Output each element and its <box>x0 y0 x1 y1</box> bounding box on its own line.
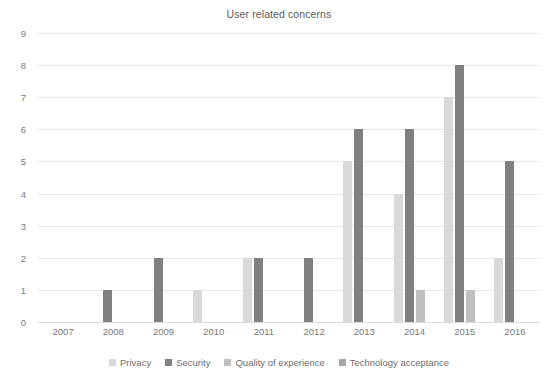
bar-group <box>239 33 289 322</box>
bar <box>416 290 425 322</box>
x-axis-tick-label: 2008 <box>88 326 138 344</box>
y-axis-tick-label: 9 <box>21 28 26 39</box>
bar <box>354 129 363 322</box>
x-axis-tick-label: 2014 <box>389 326 439 344</box>
x-axis-tick-label: 2016 <box>490 326 540 344</box>
bar-group <box>339 33 389 322</box>
legend-label: Privacy <box>120 357 151 368</box>
bar-group <box>88 33 138 322</box>
legend-swatch-icon <box>339 359 346 366</box>
bar <box>154 258 163 322</box>
bar <box>343 161 352 322</box>
bar <box>405 129 414 322</box>
chart-container: User related concerns 0123456789 2007200… <box>0 0 558 380</box>
y-axis-tick-label: 4 <box>21 188 26 199</box>
y-axis-tick-label: 0 <box>21 317 26 328</box>
bar <box>455 65 464 322</box>
bar <box>304 258 313 322</box>
bars-layer <box>38 33 540 322</box>
bar <box>243 258 252 322</box>
bar-group <box>440 33 490 322</box>
x-axis-tick-label: 2010 <box>189 326 239 344</box>
y-axis-tick-label: 8 <box>21 60 26 71</box>
legend-label: Quality of experience <box>235 357 324 368</box>
bar <box>103 290 112 322</box>
y-axis-tick-label: 6 <box>21 124 26 135</box>
x-axis: 2007200820092010201120122013201420152016 <box>38 326 540 344</box>
legend-label: Security <box>176 357 210 368</box>
bar-group <box>189 33 239 322</box>
plot-area <box>38 33 540 322</box>
y-axis-tick-label: 7 <box>21 92 26 103</box>
gridline <box>38 322 540 323</box>
bar-group <box>289 33 339 322</box>
legend-label: Technology acceptance <box>350 357 449 368</box>
x-axis-tick-label: 2012 <box>289 326 339 344</box>
x-axis-tick-label: 2015 <box>440 326 490 344</box>
chart-title: User related concerns <box>0 8 558 20</box>
bar <box>444 97 453 322</box>
legend-item[interactable]: Quality of experience <box>224 357 324 368</box>
bar <box>193 290 202 322</box>
legend-item[interactable]: Privacy <box>109 357 151 368</box>
bar <box>394 194 403 322</box>
x-axis-tick-label: 2013 <box>339 326 389 344</box>
legend-item[interactable]: Security <box>165 357 210 368</box>
y-axis: 0123456789 <box>0 33 32 322</box>
x-axis-tick-label: 2007 <box>38 326 88 344</box>
legend-swatch-icon <box>224 359 231 366</box>
bar <box>494 258 503 322</box>
bar-group <box>38 33 88 322</box>
y-axis-tick-label: 2 <box>21 252 26 263</box>
y-axis-tick-label: 1 <box>21 284 26 295</box>
x-axis-tick-label: 2009 <box>138 326 188 344</box>
y-axis-tick-label: 3 <box>21 220 26 231</box>
bar-group <box>389 33 439 322</box>
bar <box>466 290 475 322</box>
bar <box>254 258 263 322</box>
legend-swatch-icon <box>109 359 116 366</box>
legend-item[interactable]: Technology acceptance <box>339 357 449 368</box>
bar-group <box>490 33 540 322</box>
chart-legend: PrivacySecurityQuality of experienceTech… <box>0 357 558 368</box>
y-axis-tick-label: 5 <box>21 156 26 167</box>
bar-group <box>138 33 188 322</box>
x-axis-tick-label: 2011 <box>239 326 289 344</box>
legend-swatch-icon <box>165 359 172 366</box>
bar <box>505 161 514 322</box>
